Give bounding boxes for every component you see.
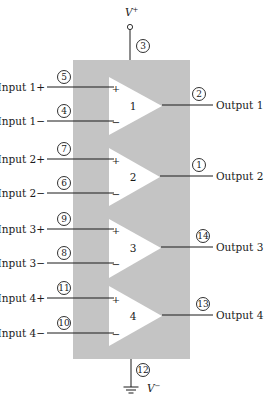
pin-number: 10 xyxy=(58,318,70,328)
input-label: Input 2+ xyxy=(0,153,45,165)
non-inverting-sign: + xyxy=(112,155,120,166)
ground-icon xyxy=(124,387,139,393)
supply-negative-label: V− xyxy=(147,382,161,394)
pin-badge: 12 xyxy=(137,364,150,377)
pin-number: 5 xyxy=(61,72,67,82)
inverting-sign: − xyxy=(112,329,120,340)
output-label: Output 1 xyxy=(216,99,263,111)
pin-number: 8 xyxy=(61,248,67,258)
input-label: Input 4− xyxy=(0,327,45,339)
op-amp-number: 4 xyxy=(130,310,137,322)
pin-number: 4 xyxy=(61,106,67,116)
output-label: Output 4 xyxy=(216,309,264,321)
non-inverting-sign: + xyxy=(112,225,120,236)
supply-negative: 12 V− xyxy=(124,359,161,394)
pin-number: 6 xyxy=(61,178,67,188)
non-inverting-sign: + xyxy=(112,294,120,305)
pin-number: 13 xyxy=(197,299,209,309)
supply-terminal-icon xyxy=(127,24,132,29)
input-label: Input 1+ xyxy=(0,81,45,93)
input-label: Input 4+ xyxy=(0,292,45,304)
pin-number: 3 xyxy=(140,41,146,51)
pin-number: 7 xyxy=(61,144,67,154)
inverting-sign: − xyxy=(112,117,120,128)
supply-positive-label: V+ xyxy=(125,6,139,18)
op-amp-number: 3 xyxy=(130,242,137,254)
pin-number: 11 xyxy=(58,283,69,293)
pin-number: 2 xyxy=(196,89,202,99)
op-amp-number: 1 xyxy=(130,100,137,112)
input-label: Input 3− xyxy=(0,257,45,269)
op-amp-number: 2 xyxy=(130,171,137,183)
non-inverting-sign: + xyxy=(112,83,120,94)
pin-badge: 3 xyxy=(137,40,150,53)
supply-positive: V+ 3 xyxy=(125,6,150,60)
input-label: Input 3+ xyxy=(0,223,45,235)
output-label: Output 2 xyxy=(216,170,263,182)
pin-number: 1 xyxy=(196,160,202,170)
output-label: Output 3 xyxy=(216,241,263,253)
pin-number: 12 xyxy=(137,365,148,375)
input-label: Input 2− xyxy=(0,187,45,199)
inverting-sign: − xyxy=(112,259,120,270)
inverting-sign: − xyxy=(112,189,120,200)
pin-number: 14 xyxy=(197,231,209,241)
input-label: Input 1− xyxy=(0,115,45,127)
quad-op-amp-diagram: V+ 3 1Input 1+5+Input 1−4−Output 122Inpu… xyxy=(0,0,271,404)
pin-number: 9 xyxy=(61,214,67,224)
